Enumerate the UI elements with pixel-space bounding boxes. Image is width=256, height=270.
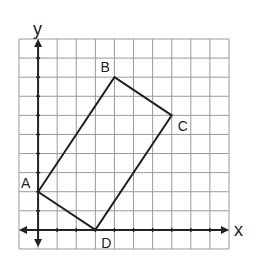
vertex-labels: A B C D bbox=[21, 59, 188, 251]
vertex-label-b: B bbox=[100, 59, 109, 75]
x-axis-label: x bbox=[234, 220, 243, 240]
vertex-label-d: D bbox=[101, 235, 111, 251]
diagram-canvas: x y A B C D bbox=[0, 0, 256, 270]
grid-lines bbox=[19, 39, 229, 249]
y-axis-arrow-down-icon bbox=[34, 239, 42, 247]
vertex-label-a: A bbox=[21, 175, 31, 191]
y-axis-arrow-up-icon bbox=[34, 39, 42, 47]
coordinate-plane-diagram: x y A B C D bbox=[0, 0, 256, 270]
y-axis-label: y bbox=[33, 19, 42, 39]
x-axis-arrow-right-icon bbox=[221, 226, 229, 234]
axis-ticks bbox=[36, 58, 210, 232]
x-axis-arrow-left-icon bbox=[19, 226, 27, 234]
vertex-label-c: C bbox=[178, 118, 188, 134]
axes: x y bbox=[19, 19, 243, 247]
